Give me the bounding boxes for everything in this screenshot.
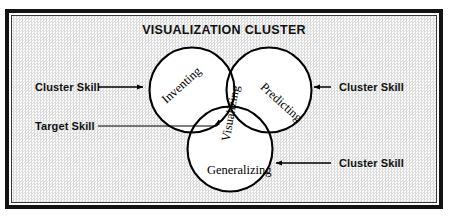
venn-label-generalizing: Generalizing xyxy=(207,163,272,178)
diagram-inner-frame: VISUALIZATION CLUSTER xyxy=(11,15,437,203)
diagram-frame-gap: VISUALIZATION CLUSTER xyxy=(9,13,439,205)
diagram-outer-frame: VISUALIZATION CLUSTER xyxy=(5,9,443,209)
annotation-label-cluster-skill-right: Cluster Skill xyxy=(339,81,404,93)
annotation-label-cluster-skill-left: Cluster Skill xyxy=(35,81,100,93)
diagram-panel-body: VISUALIZATION CLUSTER xyxy=(12,16,436,202)
screenshot-root: VISUALIZATION CLUSTER xyxy=(0,0,449,220)
annotation-label-cluster-skill-bottom-right: Cluster Skill xyxy=(339,157,404,169)
annotation-label-target-skill-left: Target Skill xyxy=(35,120,95,132)
